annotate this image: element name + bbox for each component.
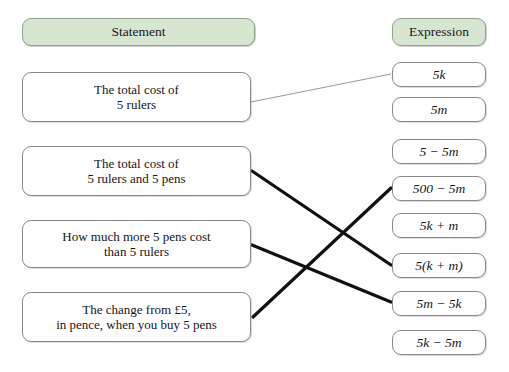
connection-line-stmt3-to-5m-minus-5k (252, 245, 391, 302)
header-expression: Expression (392, 18, 486, 46)
statement-card-3[interactable]: How much more 5 pens cost than 5 rulers (22, 220, 251, 268)
statement-card-2[interactable]: The total cost of 5 rulers and 5 pens (22, 146, 251, 196)
expression-card-5k-minus-5m[interactable]: 5k − 5m (392, 330, 486, 355)
expression-card-5-bracket-k-plus-m-label: 5(k + m) (415, 258, 462, 274)
expression-card-5k-minus-5m-label: 5k − 5m (416, 335, 461, 351)
expression-card-5m-minus-5k-label: 5m − 5k (416, 296, 461, 312)
expression-card-500-minus-5m[interactable]: 500 − 5m (392, 176, 486, 201)
statement-card-3-line1: How much more 5 pens cost (62, 229, 210, 244)
header-statement-label: Statement (112, 24, 166, 40)
statement-card-3-line2: than 5 rulers (62, 244, 210, 259)
connection-line-stmt1-to-5k (251, 74, 391, 102)
statement-card-1-line2: 5 rulers (94, 97, 179, 112)
expression-card-5-minus-5m[interactable]: 5 − 5m (392, 139, 486, 164)
statement-card-3-text: How much more 5 pens cost than 5 rulers (56, 229, 216, 260)
expression-card-5m-label: 5m (431, 102, 448, 118)
header-statement: Statement (22, 18, 255, 46)
matching-diagram: Statement Expression The total cost of 5… (0, 0, 509, 372)
expression-card-5k-label: 5k (433, 67, 446, 83)
statement-card-2-line1: The total cost of (87, 156, 185, 171)
statement-card-2-line2: 5 rulers and 5 pens (87, 171, 185, 186)
connection-line-stmt4-to-500-minus-5m (253, 188, 391, 317)
statement-card-4[interactable]: The change from £5, in pence, when you b… (22, 292, 251, 342)
header-expression-label: Expression (409, 24, 469, 40)
statement-card-2-text: The total cost of 5 rulers and 5 pens (81, 156, 191, 187)
statement-card-1-text: The total cost of 5 rulers (88, 82, 185, 113)
statement-card-4-line1: The change from £5, (56, 302, 217, 317)
expression-card-5-minus-5m-label: 5 − 5m (419, 144, 458, 160)
statement-card-4-line2: in pence, when you buy 5 pens (56, 317, 217, 332)
connection-line-stmt2-to-5kplusm-bracket (252, 171, 391, 265)
expression-card-500-minus-5m-label: 500 − 5m (413, 181, 466, 197)
expression-card-5m-minus-5k[interactable]: 5m − 5k (392, 291, 486, 316)
statement-card-4-text: The change from £5, in pence, when you b… (50, 302, 223, 333)
expression-card-5k-plus-m-label: 5k + m (420, 218, 458, 234)
expression-card-5k-plus-m[interactable]: 5k + m (392, 213, 486, 238)
statement-card-1[interactable]: The total cost of 5 rulers (22, 72, 251, 122)
statement-card-1-line1: The total cost of (94, 82, 179, 97)
expression-card-5k[interactable]: 5k (392, 62, 486, 87)
expression-card-5-bracket-k-plus-m[interactable]: 5(k + m) (392, 253, 486, 278)
expression-card-5m[interactable]: 5m (392, 97, 486, 122)
